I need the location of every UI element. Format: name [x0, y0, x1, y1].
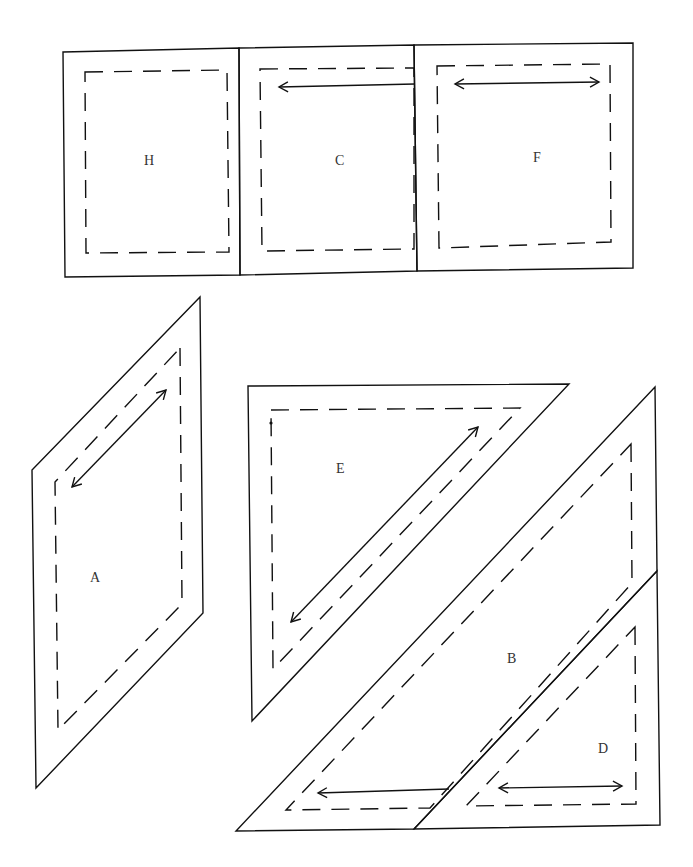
grainline-arrow-b	[318, 789, 449, 793]
piece-label-a: A	[90, 570, 101, 585]
piece-label-f: F	[533, 150, 541, 165]
piece-a: A	[32, 297, 203, 788]
grainline-arrow-e	[291, 427, 478, 622]
piece-label-c: C	[335, 153, 344, 168]
piece-h: H	[63, 48, 240, 277]
piece-e: E	[248, 384, 569, 721]
piece-b: B	[236, 387, 657, 831]
pattern-diagram: H C F A E B D	[0, 0, 693, 867]
grainline-arrow-f	[455, 82, 599, 84]
piece-c: C	[239, 45, 417, 275]
piece-label-e: E	[336, 461, 345, 476]
piece-f: F	[414, 43, 633, 271]
grainline-arrow-c	[279, 84, 415, 87]
grainline-arrow-d	[499, 786, 622, 788]
piece-d: D	[414, 571, 660, 829]
piece-label-b: B	[507, 651, 516, 666]
piece-label-h: H	[144, 153, 154, 168]
grainline-arrow-a	[72, 390, 166, 487]
piece-label-d: D	[598, 741, 608, 756]
